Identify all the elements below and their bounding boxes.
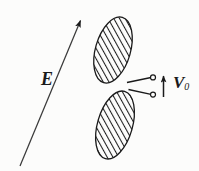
upper-plate	[87, 12, 139, 87]
upper-feed-wire	[127, 78, 151, 83]
e-field-arrow-shaft	[20, 21, 81, 167]
voltage-symbol: V	[173, 73, 184, 92]
e-field-vector	[20, 21, 81, 167]
e-field-label: E	[41, 70, 54, 88]
lower-terminal-icon	[151, 92, 156, 97]
lower-plate	[89, 87, 142, 164]
feed-network	[127, 75, 156, 97]
upper-plate-shape	[87, 12, 139, 87]
upper-terminal-icon	[151, 75, 156, 80]
figure-canvas	[0, 0, 199, 171]
lower-plate-shape	[89, 87, 142, 164]
physics-figure: E V0	[0, 0, 199, 171]
lower-feed-wire	[129, 90, 152, 95]
voltage-label: V0	[173, 74, 189, 92]
voltage-subscript: 0	[184, 81, 189, 92]
